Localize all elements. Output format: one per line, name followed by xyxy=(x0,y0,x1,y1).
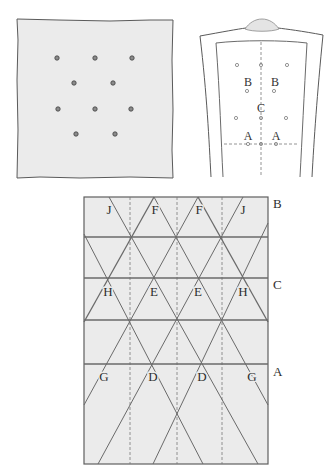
pin-dot xyxy=(55,56,59,60)
row-label-c: C xyxy=(273,277,282,292)
point-label-f: F xyxy=(195,202,202,217)
pin-dot xyxy=(74,132,78,136)
point-label-d: D xyxy=(197,369,206,384)
pin-dot xyxy=(93,56,97,60)
garment-panel: B B C A A xyxy=(200,19,323,177)
garment-label-a-left: A xyxy=(244,129,253,143)
point-label-f: F xyxy=(151,202,158,217)
pin-dot xyxy=(56,107,60,111)
row-label-b: B xyxy=(273,196,282,211)
garment-label-c: C xyxy=(257,101,265,115)
garment-label-b-left: B xyxy=(244,75,252,89)
point-label-g: G xyxy=(99,369,108,384)
point-label-h: H xyxy=(238,284,247,299)
pin-dot xyxy=(93,107,97,111)
row-label-a: A xyxy=(273,364,283,379)
pin-dot xyxy=(72,81,76,85)
point-label-g: G xyxy=(247,369,256,384)
pin-dot xyxy=(113,132,117,136)
pin-dot xyxy=(111,81,115,85)
pin-mark xyxy=(272,89,275,92)
pin-mark xyxy=(234,116,237,119)
pin-dot xyxy=(130,56,134,60)
sheet-outline xyxy=(17,19,173,178)
point-label-d: D xyxy=(148,369,157,384)
lattice-row-labels: B C A xyxy=(273,196,283,379)
point-label-j: J xyxy=(106,202,111,217)
point-label-e: E xyxy=(150,284,158,299)
pin-dot xyxy=(129,107,133,111)
lattice-panel: J F F J H E E H G D D G B C A xyxy=(84,196,283,464)
diagram-canvas: B B C A A J F xyxy=(0,0,336,470)
garment-neck-collar xyxy=(245,19,279,31)
pin-mark xyxy=(285,63,288,66)
point-label-j: J xyxy=(240,202,245,217)
garment-label-b-right: B xyxy=(271,75,279,89)
garment-label-a-right: A xyxy=(272,129,281,143)
sheet-panel xyxy=(17,19,173,178)
point-label-h: H xyxy=(103,284,112,299)
point-label-e: E xyxy=(194,284,202,299)
pin-mark xyxy=(235,63,238,66)
pin-mark xyxy=(284,116,287,119)
pin-mark xyxy=(245,89,248,92)
